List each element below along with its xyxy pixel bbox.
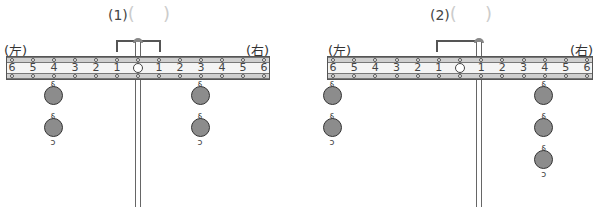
lever-panel-2: (2)() (左) (右) 654321123456 §§ɔ §§§ɔ [320,0,602,207]
beam-hole [262,74,266,78]
bottom-hook-icon: ɔ [50,138,56,146]
pivot-icon [455,63,465,73]
beam-hole [458,74,462,78]
weight-ball [44,86,63,105]
beam-hole [10,74,14,78]
tick-label: 3 [517,62,531,74]
beam-hole [458,58,462,62]
beam-hole [564,74,568,78]
beam-hole [157,74,161,78]
tick-label: 5 [559,62,573,74]
beam-hole [220,74,224,78]
panel-number: (2) [430,7,450,23]
pivot-icon [133,63,143,73]
beam-hole [136,74,140,78]
panel-number: (1) [108,7,128,23]
beam-hole [73,74,77,78]
tick-label: 2 [411,62,425,74]
tick-label: 5 [347,62,361,74]
bottom-hook-icon: ɔ [541,170,547,178]
cut-off-caption [145,199,465,207]
weight-ball [323,86,342,105]
beam-hole [199,74,203,78]
beam-hole [178,74,182,78]
tick-label: 1 [152,62,166,74]
bottom-hook-icon: ɔ [197,138,203,146]
lever-beam: 654321123456 [327,56,593,80]
tick-label: 3 [68,62,82,74]
tick-label: 1 [474,62,488,74]
tick-label: 6 [257,62,271,74]
lever-beam: 654321123456 [6,56,270,80]
beam-hole [437,74,441,78]
tick-label: 3 [194,62,208,74]
tick-label: 4 [538,62,552,74]
answer-blank-open: ( [450,3,457,24]
tick-label: 5 [26,62,40,74]
tick-label: 5 [236,62,250,74]
tick-label: 4 [368,62,382,74]
weight-ball [191,118,210,137]
beam-hole [52,74,56,78]
beam-hole [331,74,335,78]
tick-label: 1 [110,62,124,74]
tick-label: 4 [47,62,61,74]
bottom-hook-icon: ɔ [329,138,335,146]
beam-hole [94,74,98,78]
answer-blank-close: ) [163,3,170,24]
answer-blank-open: ( [128,3,135,24]
tick-label: 6 [326,62,340,74]
weight-ball [191,86,210,105]
tick-label: 1 [432,62,446,74]
tick-label: 2 [495,62,509,74]
beam-hole [522,74,526,78]
panel-title-1: (1)() [108,3,170,24]
tick-label: 4 [215,62,229,74]
lever-panel-1: (1)() (左) (右) 654321123456 §§ɔ §§ɔ [0,0,300,207]
weight-ball [534,118,553,137]
beam-hole [543,74,547,78]
beam-hole [31,74,35,78]
tick-label: 6 [580,62,594,74]
tick-label: 2 [89,62,103,74]
weight-ball [44,118,63,137]
beam-hole [585,74,589,78]
beam-hole [241,74,245,78]
beam-hole [416,74,420,78]
beam-hole [395,74,399,78]
tick-label: 2 [173,62,187,74]
tick-label: 6 [5,62,19,74]
weight-ball [323,118,342,137]
answer-blank-close: ) [485,3,492,24]
beam-hole [115,74,119,78]
tick-label: 3 [390,62,404,74]
panel-title-2: (2)() [430,3,492,24]
weight-ball [534,86,553,105]
beam-hole [136,58,140,62]
weight-ball [534,150,553,169]
